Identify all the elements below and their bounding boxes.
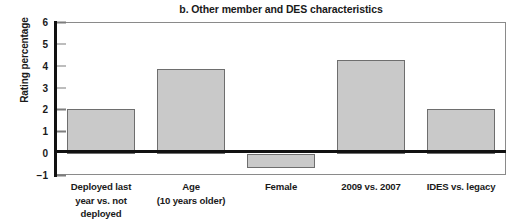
y-tick-mark — [57, 43, 66, 45]
x-axis-category-label: IDES vs. legacy — [416, 180, 506, 224]
x-axis-category-label: Age (10 years older) — [146, 180, 236, 224]
chart-title: b. Other member and DES characteristics — [56, 3, 506, 16]
y-tick-label: 4 — [28, 61, 48, 72]
y-tick-mark — [57, 131, 66, 133]
y-tick-mark — [57, 87, 66, 89]
bar — [247, 154, 315, 168]
bar — [337, 60, 405, 154]
y-tick-mark — [57, 22, 66, 24]
y-tick-label: 1 — [28, 126, 48, 137]
y-tick-label: −1 — [28, 170, 48, 181]
y-tick-label: 2 — [28, 104, 48, 115]
x-axis-category-label: 2009 vs. 2007 — [326, 180, 416, 224]
y-tick-mark — [57, 109, 66, 111]
x-axis-category-labels: Deployed last year vs. not deployedAge (… — [56, 180, 506, 224]
bar — [157, 69, 225, 154]
x-axis-category-label: Deployed last year vs. not deployed — [56, 180, 146, 224]
bar-chart: b. Other member and DES characteristics … — [0, 0, 520, 224]
y-tick-mark — [57, 65, 66, 67]
y-tick-label: 5 — [28, 39, 48, 50]
y-tick-mark — [57, 175, 66, 177]
y-tick-label: 0 — [28, 148, 48, 159]
y-tick-label: 6 — [28, 17, 48, 28]
bar — [427, 109, 495, 154]
x-axis-category-label: Female — [236, 180, 326, 224]
zero-baseline — [54, 150, 506, 153]
bar — [67, 109, 135, 154]
y-tick-label: 3 — [28, 83, 48, 94]
